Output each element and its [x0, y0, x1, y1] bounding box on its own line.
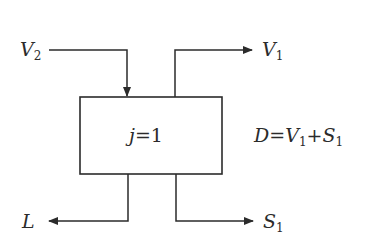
- l-label: L: [22, 212, 35, 231]
- distillate-equation: D=V1+S1: [254, 126, 343, 148]
- v2-label: V2: [20, 40, 41, 62]
- stage-diagram: V2 V1 L S1 j=1 D=V1+S1: [0, 0, 388, 245]
- diagram-lines: [0, 0, 388, 245]
- s1-outlet-line: [176, 174, 253, 221]
- v1-label: V1: [262, 40, 283, 62]
- v2-inlet-line: [49, 50, 127, 96]
- stage-label: j=1: [129, 126, 163, 145]
- s1-label: S1: [263, 212, 284, 234]
- l-outlet-line: [49, 174, 128, 221]
- v1-outlet-line: [175, 50, 252, 97]
